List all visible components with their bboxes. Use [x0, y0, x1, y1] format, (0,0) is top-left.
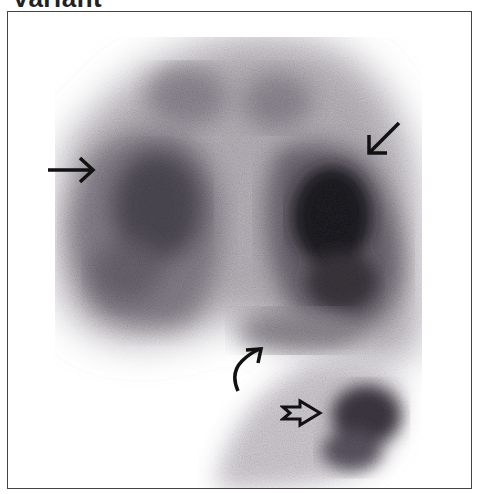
arrow-right-icon — [46, 155, 98, 185]
scintigraphy-image — [8, 12, 471, 488]
arrow-down-left-icon — [363, 119, 403, 159]
open-arrow-icon — [280, 398, 324, 428]
scan-frame — [7, 11, 472, 489]
curved-arrow-icon — [228, 345, 268, 395]
